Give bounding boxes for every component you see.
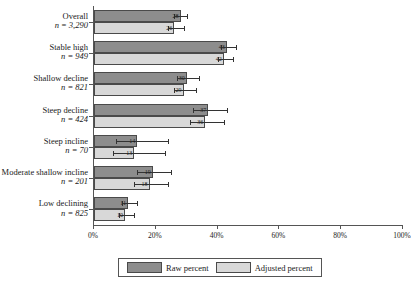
x-axis-tick-label: 80%: [333, 231, 347, 240]
bar-group: 1110: [94, 197, 403, 221]
category-label-2: Stable highn = 949: [0, 43, 88, 61]
category-sample-size: n = 825: [0, 209, 88, 218]
bar-value-label: 11: [120, 200, 127, 206]
x-axis-tick-label: 60%: [272, 231, 286, 240]
x-axis-tick: [402, 225, 403, 229]
error-bar: [134, 184, 168, 185]
bar-raw: [94, 41, 227, 53]
error-bar-cap-high: [224, 120, 225, 125]
x-axis-tick-label: 20%: [148, 231, 162, 240]
error-bar-cap-high: [168, 182, 169, 187]
bar-value-label: 14: [129, 138, 136, 144]
y-axis-tick: [89, 178, 93, 179]
category-sample-size: n = 3,290: [0, 21, 88, 30]
legend-label: Raw percent: [166, 263, 209, 273]
error-bar: [116, 141, 169, 142]
x-axis-tick-label: 0%: [88, 231, 98, 240]
bar-raw: [94, 104, 208, 116]
bar-value-label: 43: [219, 44, 226, 50]
category-sample-size: n = 70: [0, 146, 88, 155]
bar-group: 2826: [94, 10, 403, 34]
error-bar-cap-high: [168, 139, 169, 144]
bar-group: 3029: [94, 72, 403, 96]
x-axis-tick: [155, 225, 156, 229]
bar-value-label: 26: [166, 25, 173, 31]
error-bar-cap-high: [171, 170, 172, 175]
category-sample-size: n = 201: [0, 177, 88, 186]
error-bar: [137, 172, 171, 173]
x-axis-tick: [93, 225, 94, 229]
category-sample-size: n = 949: [0, 52, 88, 61]
y-axis-tick: [89, 209, 93, 210]
bar-value-label: 42: [216, 56, 223, 62]
horizontal-bar-chart: Overalln = 3,290Stable highn = 949Shallo…: [0, 0, 411, 289]
category-label-1: Overalln = 3,290: [0, 12, 88, 30]
category-sample-size: n = 424: [0, 115, 88, 124]
bar-value-label: 28: [173, 13, 180, 19]
category-label-3: Shallow declinen = 821: [0, 74, 88, 92]
error-bar-cap-high: [184, 26, 185, 31]
x-axis-tick: [340, 225, 341, 229]
error-bar-cap-low: [137, 170, 138, 175]
y-axis-tick: [89, 53, 93, 54]
bar-group: 1413: [94, 135, 403, 159]
x-axis-tick: [217, 225, 218, 229]
bar-value-label: 13: [126, 150, 133, 156]
error-bar-cap-low: [193, 108, 194, 113]
x-axis-line: [93, 225, 403, 226]
error-bar-cap-high: [227, 108, 228, 113]
bar-value-label: 36: [197, 119, 204, 125]
error-bar-cap-high: [236, 45, 237, 50]
category-sample-size: n = 821: [0, 83, 88, 92]
bar-group: 4342: [94, 41, 403, 65]
bar-group: 1918: [94, 166, 403, 190]
x-axis-tick-label: 40%: [210, 231, 224, 240]
error-bar-cap-high: [187, 14, 188, 19]
y-axis-tick: [89, 116, 93, 117]
x-axis-tick-label: 100%: [393, 231, 411, 240]
plot-area: 2826434230293736141319181110: [94, 6, 403, 225]
legend-swatch-raw: [127, 262, 162, 273]
category-label-6: Moderate shallow inclinen = 201: [0, 168, 88, 186]
x-axis-tick: [278, 225, 279, 229]
error-bar-cap-low: [113, 151, 114, 156]
error-bar: [190, 122, 224, 123]
legend-swatch-adj: [216, 262, 251, 273]
bar-raw: [94, 10, 181, 22]
error-bar-cap-low: [116, 139, 117, 144]
error-bar-cap-high: [137, 201, 138, 206]
bar-adjusted: [94, 53, 224, 65]
error-bar-cap-high: [196, 88, 197, 93]
error-bar: [193, 110, 227, 111]
error-bar-cap-low: [190, 120, 191, 125]
bar-adjusted: [94, 84, 184, 96]
bar-value-label: 30: [179, 75, 186, 81]
bar-value-label: 18: [142, 181, 149, 187]
bar-adjusted: [94, 116, 205, 128]
chart-legend: Raw percentAdjusted percent: [118, 258, 322, 277]
y-axis-tick: [89, 147, 93, 148]
bar-raw: [94, 72, 187, 84]
error-bar: [113, 153, 166, 154]
error-bar-cap-high: [199, 76, 200, 81]
bar-value-label: 10: [117, 212, 124, 218]
category-label-5: Steep inclinen = 70: [0, 137, 88, 155]
error-bar-cap-high: [134, 213, 135, 218]
y-axis-tick: [89, 84, 93, 85]
bar-value-label: 37: [200, 107, 207, 113]
error-bar-cap-low: [134, 182, 135, 187]
legend-label: Adjusted percent: [255, 263, 313, 273]
bar-adjusted: [94, 22, 174, 34]
bar-group: 3736: [94, 104, 403, 128]
error-bar-cap-high: [165, 151, 166, 156]
bar-value-label: 29: [176, 87, 183, 93]
category-label-4: Steep declinen = 424: [0, 106, 88, 124]
legend-item-1: Raw percent: [127, 262, 209, 273]
category-label-7: Low decliningn = 825: [0, 199, 88, 217]
error-bar-cap-high: [233, 57, 234, 62]
y-axis-tick: [89, 22, 93, 23]
bar-value-label: 19: [145, 169, 152, 175]
legend-item-2: Adjusted percent: [216, 262, 313, 273]
